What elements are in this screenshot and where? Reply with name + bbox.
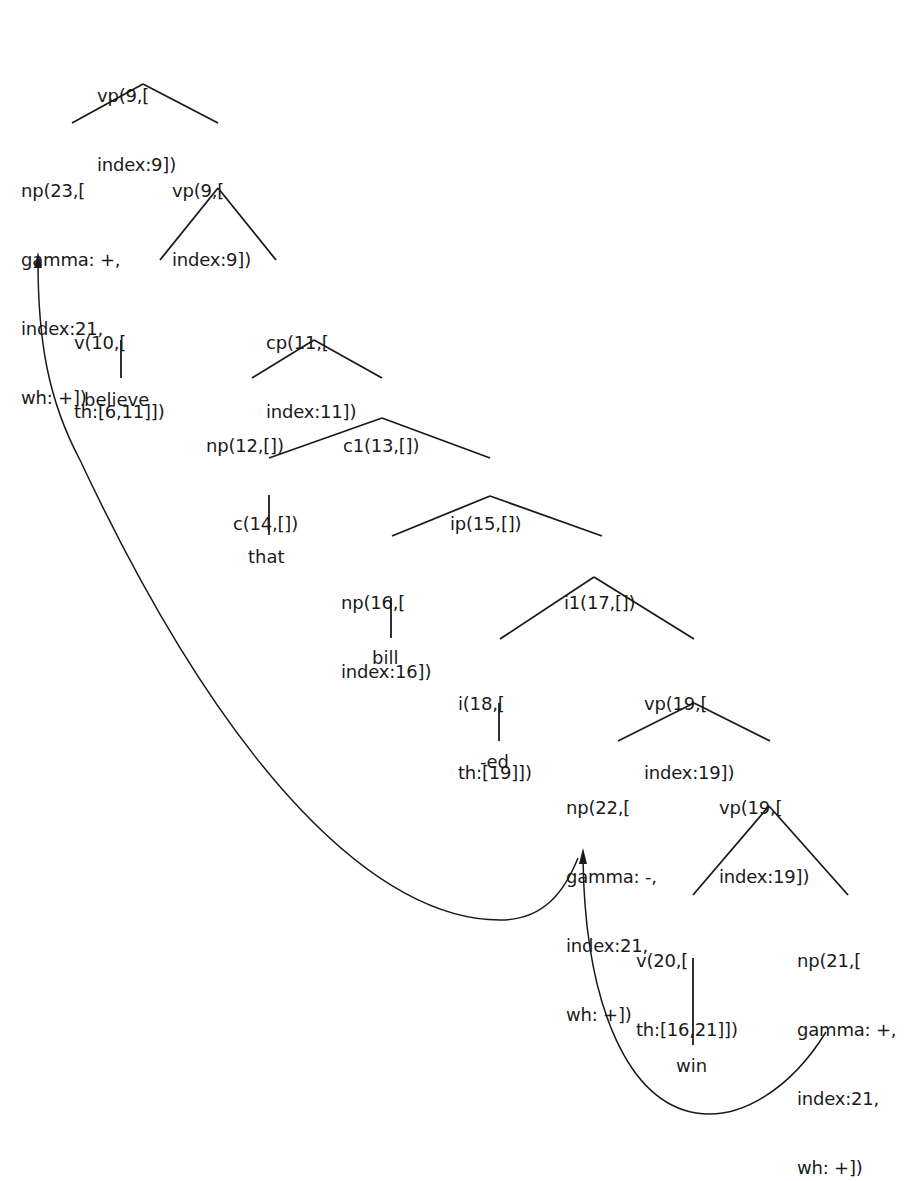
node-label-line: c1(13,[]) [343, 434, 419, 457]
node-label-line: wh: +]) [797, 1156, 896, 1179]
node-np21: np(21,[ gamma: +, index:21, wh: +]) [797, 903, 896, 1181]
node-v20: v(20,[ th:[16,21]]) [636, 903, 738, 1064]
node-label-line: vp(19,[ [644, 692, 734, 715]
node-label-line: v(20,[ [636, 949, 738, 972]
node-label-line: i1(17,[]) [564, 591, 635, 614]
node-label-line: index:9]) [172, 248, 251, 271]
node-label-line: c(14,[]) [233, 512, 298, 535]
node-label-line: np(22,[ [566, 796, 657, 819]
node-label-line: np(12,[]) [206, 434, 284, 457]
node-vp19b: vp(19,[ index:19]) [719, 750, 809, 911]
node-v10: v(10,[ th:[6,11]]) [74, 285, 165, 446]
node-label-line: gamma: +, [21, 248, 120, 271]
node-label-line: gamma: +, [797, 1018, 896, 1041]
node-label-line: ip(15,[]) [450, 512, 521, 535]
node-label-line: cp(11,[ [266, 331, 356, 354]
node-c1-13: c1(13,[]) [343, 388, 419, 480]
leaf-that: that [248, 545, 285, 568]
node-np16: np(16,[ index:16]) [341, 545, 431, 706]
node-label-line: vp(19,[ [719, 796, 809, 819]
node-label-line: vp(9,[ [97, 84, 176, 107]
node-vp9: vp(9,[ index:9]) [172, 133, 251, 294]
node-label-line: v(10,[ [74, 331, 165, 354]
node-label-line: index:21, [797, 1087, 896, 1110]
node-label-line: vp(9,[ [172, 179, 251, 202]
leaf-believe: believe [84, 388, 149, 411]
node-ip15: ip(15,[]) [450, 466, 521, 558]
node-i18: i(18,[ th:[19]]) [458, 646, 532, 807]
node-label-line: index:19]) [719, 865, 809, 888]
node-i1-17: i1(17,[]) [564, 545, 635, 637]
leaf-win: win [676, 1054, 707, 1077]
node-label-line: gamma: -, [566, 865, 657, 888]
node-label-line: th:[16,21]]) [636, 1018, 738, 1041]
node-label-line: i(18,[ [458, 692, 532, 715]
node-label-line: np(21,[ [797, 949, 896, 972]
leaf-ed: -ed [480, 750, 509, 773]
node-label-line: np(23,[ [21, 179, 120, 202]
leaf-bill: bill [372, 646, 398, 669]
node-label-line: np(16,[ [341, 591, 431, 614]
